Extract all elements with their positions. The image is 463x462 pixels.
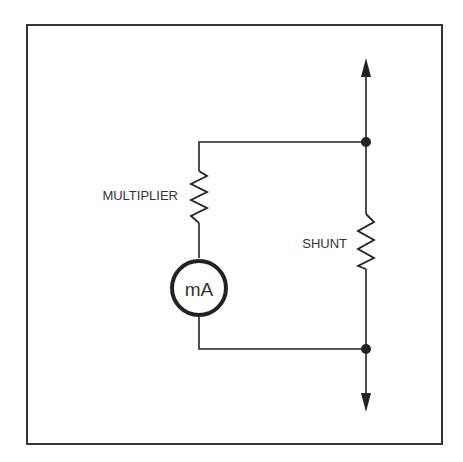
junction-top [361, 137, 371, 147]
shunt-resistor-icon [358, 214, 374, 269]
shunt-label: SHUNT [302, 236, 347, 251]
arrow-down-icon [361, 393, 371, 412]
junction-bottom [361, 344, 371, 354]
multiplier-resistor-icon [191, 171, 207, 223]
multiplier-label: MULTIPLIER [102, 188, 178, 203]
diagram-frame [27, 25, 442, 444]
circuit-diagram: mA MULTIPLIER SHUNT [0, 0, 463, 462]
meter-label: mA [185, 279, 214, 300]
arrow-up-icon [361, 58, 371, 77]
